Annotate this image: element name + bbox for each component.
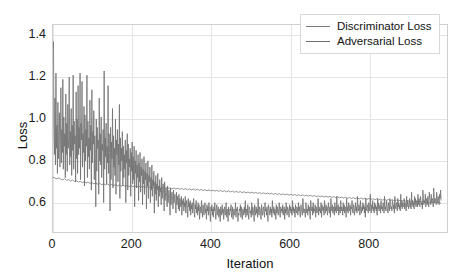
x-tick-label: 200 xyxy=(121,238,142,251)
x-axis-ticks: 0200400600800 xyxy=(52,238,448,254)
x-axis-label: Iteration xyxy=(52,256,448,271)
x-tick-label: 600 xyxy=(279,238,300,251)
y-tick-label: 0.8 xyxy=(29,154,46,167)
x-tick-label: 800 xyxy=(358,238,379,251)
chart-legend: Discriminator Loss Adversarial Loss xyxy=(300,14,440,54)
y-tick-label: 0.6 xyxy=(29,195,46,208)
legend-swatch-discriminator-loss xyxy=(306,26,330,27)
y-tick-label: 1.2 xyxy=(29,70,46,83)
legend-item-discriminator-loss[interactable]: Discriminator Loss xyxy=(306,19,432,34)
y-tick-label: 1.4 xyxy=(29,28,46,41)
plot-area xyxy=(52,24,448,233)
x-tick-label: 0 xyxy=(49,238,56,251)
y-axis-label: Loss xyxy=(15,91,30,181)
series-lines xyxy=(53,25,448,233)
series-line xyxy=(53,42,441,222)
y-tick-label: 1.0 xyxy=(29,112,46,125)
legend-label-discriminator-loss: Discriminator Loss xyxy=(337,21,432,33)
legend-swatch-adversarial-loss xyxy=(306,41,330,42)
series-line xyxy=(53,177,441,203)
loss-chart: 0.60.81.01.21.4 0200400600800 Loss Itera… xyxy=(0,0,465,280)
legend-label-adversarial-loss: Adversarial Loss xyxy=(337,36,422,48)
x-tick-label: 400 xyxy=(200,238,221,251)
legend-item-adversarial-loss[interactable]: Adversarial Loss xyxy=(306,34,432,49)
